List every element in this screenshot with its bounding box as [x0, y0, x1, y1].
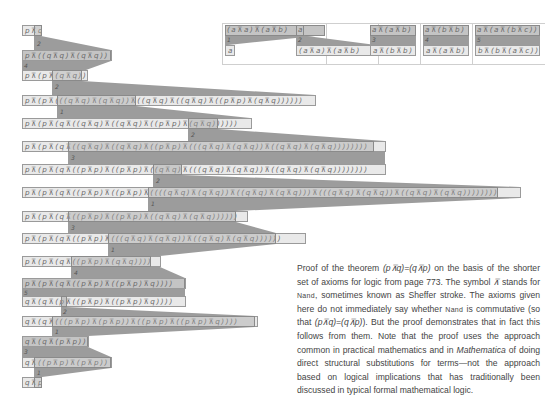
proof-step-4: 1 [60, 109, 64, 115]
proof-line-14: q⊼(q⊼(p⊼p)) [22, 336, 89, 347]
proof-step-7: 2 [156, 178, 160, 184]
proof-step-1: 2 [37, 41, 41, 47]
proof-line-1: p⊼((q⊼q)⊼(q⊼q)) [22, 50, 112, 61]
proof-step-5: 2 [191, 132, 195, 138]
proof-highlight-4 [188, 118, 218, 129]
caption-nand: Nand [445, 306, 463, 313]
caption-theorem: (p⊼q)=(q⊼p) [315, 317, 363, 327]
proof-line-6: p⊼(p⊼(q⊼((p⊼p)⊼((p⊼p)⊼((q⊼q)⊼(((q⊼q)⊼(q⊼… [22, 164, 386, 175]
proof-highlight-15 [34, 357, 111, 368]
caption-text: stands for [499, 277, 540, 287]
proof-highlight-0 [34, 25, 42, 36]
proof-highlight-8 [68, 211, 236, 222]
proof-step-2: 4 [24, 63, 28, 69]
proof-highlight-16 [34, 377, 42, 388]
proof-step-9: 3 [71, 225, 75, 231]
proof-step-13: 2 [63, 309, 67, 315]
proof-highlight-7 [148, 187, 498, 198]
caption: Proof of the theorem (p⊼q)=(q⊼p) on the … [297, 262, 540, 398]
proof-step-15: 3 [24, 349, 28, 355]
proof-step-6: 3 [71, 155, 75, 161]
proof-highlight-12 [61, 296, 67, 307]
caption-mathematica: Mathematica [457, 345, 506, 355]
caption-theorem: (p⊼q)=(q⊼p) [383, 263, 431, 273]
proof-step-8: 1 [151, 201, 155, 207]
proof-highlight-2 [52, 70, 82, 81]
proof-highlight-9 [108, 233, 276, 244]
proof-step-3: 2 [55, 84, 59, 90]
proof-highlight-10 [71, 256, 151, 267]
proof-step-11: 4 [74, 270, 78, 276]
proof-line-12: q⊼(q⊼(p⊼((p⊼p)⊼((p⊼p)⊼q)))) [22, 296, 186, 307]
proof-highlight-3 [57, 95, 136, 106]
proof-line-11: p⊼(p⊼(q⊼((p⊼p)⊼((p⊼p)⊼q)))) [22, 278, 186, 289]
proof-highlight-6 [153, 164, 182, 175]
proof-step-10: 1 [111, 247, 115, 253]
caption-text: Proof of the theorem [297, 263, 383, 273]
caption-nand: Nand [297, 292, 315, 299]
proof-highlight-13 [52, 316, 255, 327]
proof-highlight-5 [68, 141, 374, 152]
proof-step-14: 1 [55, 329, 59, 335]
proof-step-16: 1 [37, 370, 41, 376]
